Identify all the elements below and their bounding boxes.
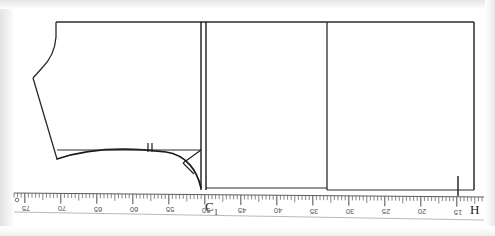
point-c1-letter: C	[205, 199, 214, 214]
tape-major-label: 35	[310, 207, 318, 216]
tape-major-label: 65	[94, 205, 102, 214]
tape-major-label: 55	[166, 205, 174, 214]
point-h-letter: H	[470, 202, 479, 217]
tape-major-label: 70	[58, 204, 66, 213]
tape-major-label: 25	[382, 207, 390, 216]
screenshot-canvas: 75706560555045403530252015 C 1 H	[0, 0, 495, 236]
tape-major-label: 75	[22, 204, 30, 213]
tape-major-label: 30	[346, 207, 354, 216]
tape-major-label: 60	[130, 205, 138, 214]
pattern-drafting-figure: 75706560555045403530252015 C 1 H	[0, 0, 495, 236]
point-c1-subscript: 1	[214, 208, 218, 217]
tape-major-label: 15	[454, 208, 462, 217]
paper-sheet	[13, 9, 485, 227]
tape-major-label: 45	[238, 206, 246, 215]
tape-major-label: 20	[418, 207, 426, 216]
tape-major-label: 40	[274, 206, 282, 215]
